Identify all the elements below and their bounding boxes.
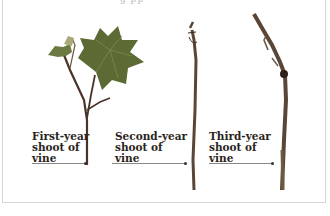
pointer-line-third-year bbox=[209, 163, 273, 164]
label-first-year: First-year shoot of vine bbox=[32, 131, 89, 164]
label-second-year: Second-year shoot of vine bbox=[115, 131, 187, 164]
pointer-line-first-year bbox=[32, 163, 86, 164]
label-third-year: Third-year shoot of vine bbox=[209, 131, 271, 164]
second-year-shoot-image bbox=[188, 22, 197, 190]
pointer-line-second-year bbox=[112, 163, 186, 164]
vine-specimens-illustration bbox=[0, 0, 330, 216]
